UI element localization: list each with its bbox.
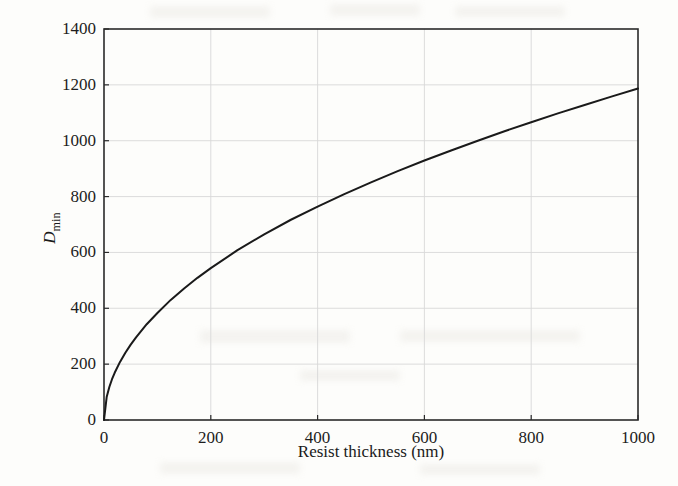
y-axis-title: Dmin [40,212,63,244]
plot-area [0,0,678,486]
y-tick-label: 1000 [40,131,96,151]
x-tick-label: 200 [198,428,224,448]
data-series-line [104,88,638,420]
x-tick-label: 800 [518,428,544,448]
plot-frame [104,29,638,420]
y-tick-label: 1200 [40,75,96,95]
y-axis-title-subscript: min [49,212,63,231]
y-tick-label: 1400 [40,19,96,39]
x-tick-label: 0 [100,428,109,448]
x-tick-label: 1000 [621,428,655,448]
x-axis-title: Resist thickness (nm) [298,442,444,462]
y-tick-label: 200 [40,354,96,374]
y-tick-label: 800 [40,187,96,207]
y-axis-title-base: D [40,232,59,244]
gridlines [104,29,638,420]
y-tick-label: 600 [40,242,96,262]
y-tick-label: 0 [40,410,96,430]
tick-marks [104,29,638,420]
y-tick-label: 400 [40,298,96,318]
figure-root: 0200400600800100012001400 02004006008001… [0,0,678,486]
